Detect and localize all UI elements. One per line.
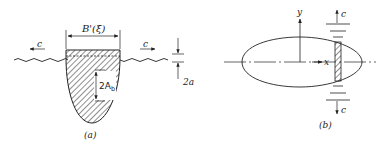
wave-speed-right: c xyxy=(143,39,148,49)
amplitude-label: 2a xyxy=(182,77,194,87)
caption-a: (a) xyxy=(84,130,97,140)
wave-speed-bottom: c xyxy=(341,105,346,115)
y-axis-label: y xyxy=(296,7,303,17)
caption-b: (b) xyxy=(319,120,332,130)
strip-section xyxy=(335,42,341,81)
figure: B'(ξ) c c 2a 2Ab (a) y x xyxy=(0,0,386,148)
x-axis-label: x xyxy=(324,57,329,67)
wave-speed-left: c xyxy=(37,39,42,49)
wave-right xyxy=(120,59,168,62)
panel-a: B'(ξ) c c 2a 2Ab (a) xyxy=(14,23,194,140)
wave-left xyxy=(14,59,68,62)
panel-b: y x c c (b) xyxy=(224,7,376,130)
beam-label: B'(ξ) xyxy=(81,23,106,34)
wave-speed-top: c xyxy=(341,9,346,19)
